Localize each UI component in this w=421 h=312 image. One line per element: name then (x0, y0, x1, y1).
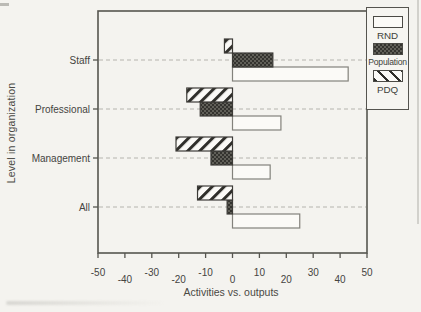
category-label-professional: Professional (35, 104, 90, 115)
scan-artifact-smudge (6, 301, 166, 305)
legend: RND Population PDQ (366, 7, 409, 110)
scan-artifact-mark (0, 3, 9, 6)
x-tick-label: -50 (91, 267, 106, 278)
scan-artifact-page-edge (417, 0, 419, 224)
x-tick-label: -20 (171, 274, 186, 285)
category-label-staff: Staff (70, 55, 91, 66)
bar-population-professional (200, 102, 232, 116)
bar-pdq-staff (224, 39, 232, 53)
legend-entry-population: Population (368, 43, 407, 68)
category-gridlines (99, 60, 366, 207)
x-tick-label: 50 (361, 267, 373, 278)
bar-population-management (211, 151, 233, 165)
x-tick-label: -10 (198, 267, 213, 278)
x-tick-label: 20 (281, 274, 293, 285)
x-tick-label: 40 (335, 274, 347, 285)
bar-pdq-all (198, 186, 233, 200)
scanned-chart-figure: -50-40-30-20-1001020304050StaffProfessio… (0, 0, 421, 312)
legend-label-population: Population (368, 57, 407, 68)
bar-population-staff (233, 53, 273, 67)
x-tick-label: -30 (145, 267, 160, 278)
x-tick-label: 30 (308, 267, 320, 278)
legend-swatch-pdq-icon (373, 70, 403, 82)
bar-rnd-professional (233, 116, 281, 130)
bars (176, 39, 348, 228)
bar-rnd-management (233, 165, 271, 179)
x-tick-label: 10 (254, 267, 266, 278)
x-tick-label: -40 (118, 274, 133, 285)
legend-swatch-rnd-icon (373, 16, 403, 28)
x-axis: -50-40-30-20-1001020304050 (91, 253, 373, 285)
bar-population-all (227, 200, 232, 214)
bar-pdq-management (176, 137, 232, 151)
category-label-management: Management (32, 153, 91, 164)
category-label-all: All (79, 202, 90, 213)
legend-label-pdq: PDQ (377, 84, 398, 95)
x-tick-label: 0 (230, 274, 236, 285)
legend-swatch-population-icon (373, 43, 403, 55)
legend-label-rnd: RND (377, 30, 398, 41)
bar-chart-canvas: -50-40-30-20-1001020304050StaffProfessio… (0, 0, 421, 312)
bar-rnd-staff (233, 67, 349, 81)
legend-entry-pdq: PDQ (373, 70, 403, 95)
y-axis: StaffProfessionalManagementAll (32, 55, 98, 213)
y-axis-title: Level in organization (5, 83, 17, 184)
legend-entry-rnd: RND (373, 16, 403, 41)
bar-pdq-professional (187, 88, 233, 102)
x-axis-title: Activities vs. outputs (183, 286, 278, 298)
bar-rnd-all (233, 214, 300, 228)
